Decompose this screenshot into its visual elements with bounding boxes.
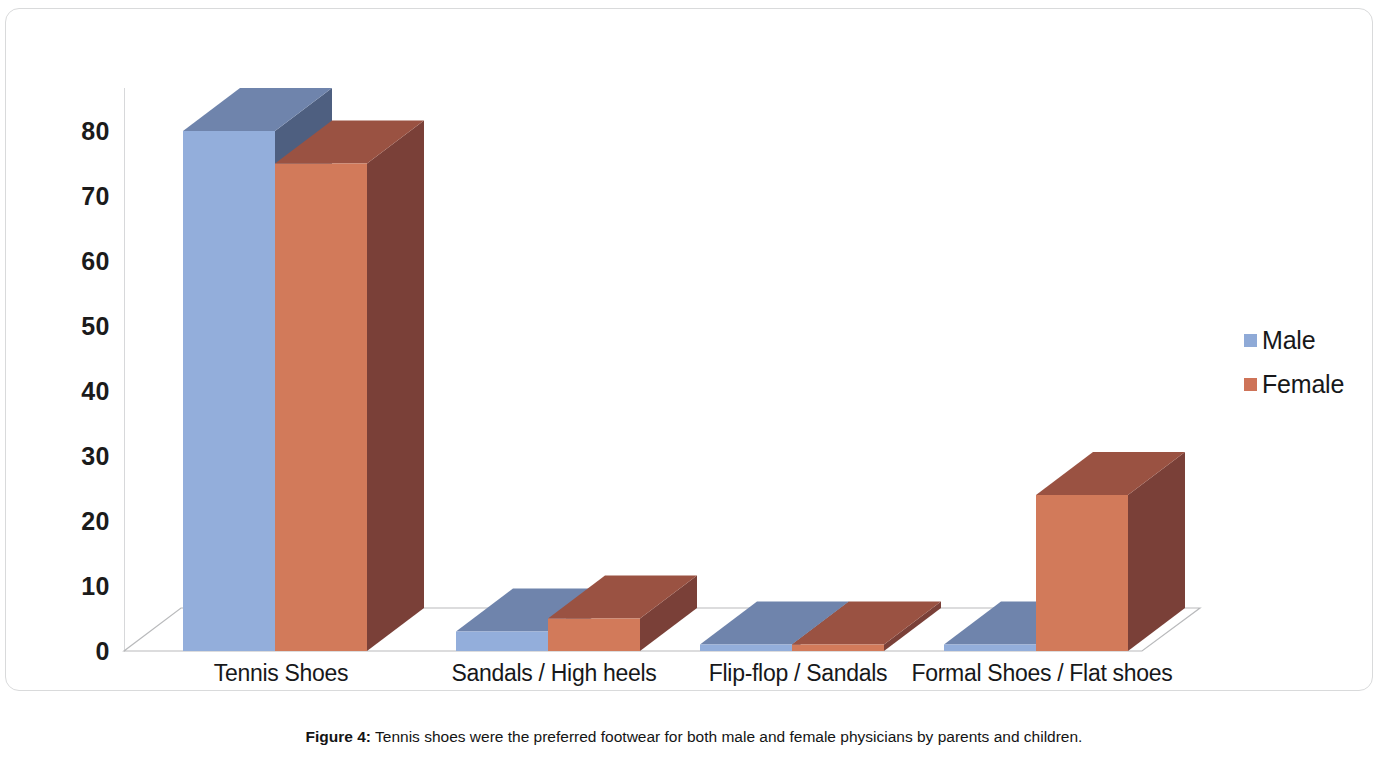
x-axis-label: Flip-flop / Sandals	[709, 660, 887, 687]
x-axis-label: Tennis Shoes	[214, 660, 349, 687]
figure-container: 01020304050607080 Tennis ShoesSandals / …	[0, 0, 1388, 774]
x-axis-label: Sandals / High heels	[452, 660, 657, 687]
figure-caption: Figure 4: Tennis shoes were the preferre…	[0, 728, 1388, 746]
bar-female-3	[0, 0, 1388, 700]
legend-item-female[interactable]: Female	[1244, 362, 1374, 406]
legend-label: Male	[1262, 328, 1315, 353]
x-axis-category-labels: Tennis ShoesSandals / High heelsFlip-flo…	[0, 660, 1388, 700]
legend-label: Female	[1262, 372, 1344, 397]
x-axis-label: Formal Shoes / Flat shoes	[912, 660, 1173, 687]
legend-item-male[interactable]: Male	[1244, 318, 1374, 362]
figure-caption-label: Figure 4:	[306, 728, 371, 745]
bars-layer	[0, 0, 1388, 700]
bar-front-face	[1036, 495, 1128, 651]
chart-plot-area: 01020304050607080 Tennis ShoesSandals / …	[0, 0, 1388, 700]
figure-caption-text: Tennis shoes were the preferred footwear…	[371, 728, 1082, 745]
legend-swatch-female-icon	[1244, 378, 1257, 391]
legend-swatch-male-icon	[1244, 334, 1257, 347]
chart-legend: MaleFemale	[1244, 318, 1374, 406]
